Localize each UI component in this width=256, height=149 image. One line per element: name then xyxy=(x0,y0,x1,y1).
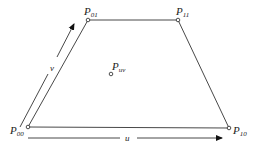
point-p11-marker xyxy=(176,18,180,22)
point-p10-marker xyxy=(227,126,231,130)
vertex-markers xyxy=(26,18,231,130)
point-p00-marker xyxy=(26,125,30,129)
edge-p00-p01 xyxy=(28,20,88,127)
v-axis-label: v xyxy=(50,63,54,73)
label-p01: P01 xyxy=(83,5,98,19)
label-p10: P10 xyxy=(232,124,247,138)
patch-edges xyxy=(28,20,229,128)
u-axis-label: u xyxy=(125,133,130,143)
edge-p10-p00 xyxy=(28,127,229,128)
point-puv-marker xyxy=(109,72,113,76)
v-axis-arrow xyxy=(20,24,74,127)
label-puv: Puv xyxy=(111,60,126,74)
bilinear-patch-diagram: v u P01 P11 Puv P00 P10 xyxy=(0,0,256,149)
edge-p11-p10 xyxy=(178,20,229,128)
label-p11: P11 xyxy=(175,5,189,19)
label-p00: P00 xyxy=(9,124,24,138)
point-p01-marker xyxy=(86,18,90,22)
